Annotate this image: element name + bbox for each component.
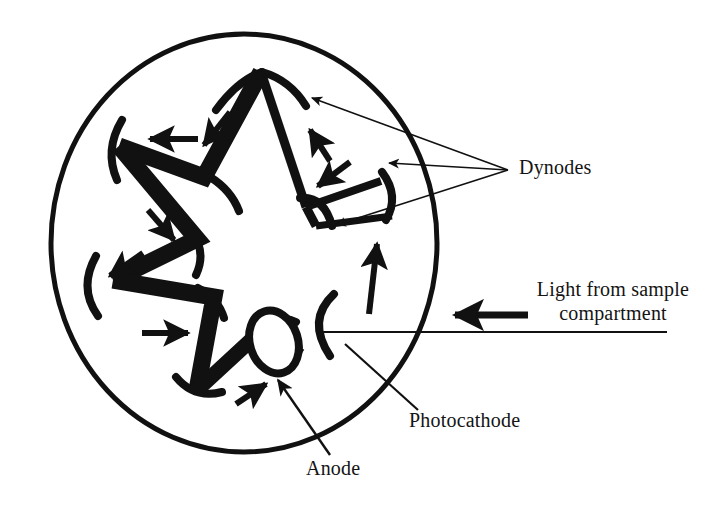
pmt-schematic-svg xyxy=(0,0,711,508)
pmt-diagram: Dynodes Light from samplecompartment Pho… xyxy=(0,0,711,508)
label-light-from-sample-compartment: Light from samplecompartment xyxy=(527,278,699,325)
label-dynodes: Dynodes xyxy=(519,156,592,180)
label-light-line1: Light from sample xyxy=(537,278,689,300)
label-anode: Anode xyxy=(306,457,360,481)
label-light-line2: compartment xyxy=(559,302,667,324)
label-photocathode: Photocathode xyxy=(409,409,520,433)
